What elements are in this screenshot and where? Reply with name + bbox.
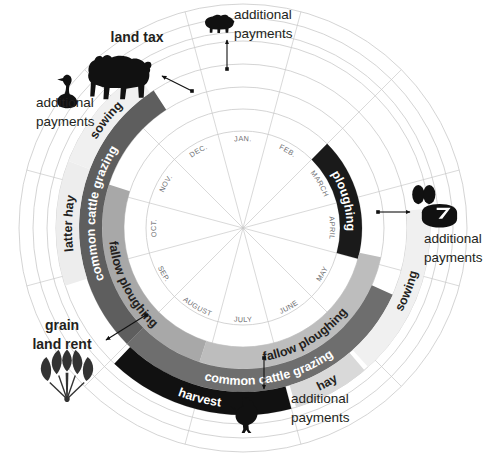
month-label-oct: OCT. bbox=[149, 218, 158, 237]
month-spoke-2 bbox=[243, 70, 401, 228]
annotation-additional-payments-left-line-0: additional bbox=[36, 95, 94, 110]
annotation-land-tax: land tax bbox=[111, 29, 164, 45]
annotation-grain-land-rent-line-1: land rent bbox=[32, 336, 91, 352]
leader-land-tax-anchor bbox=[190, 89, 194, 93]
wheat-sheaf-icon bbox=[41, 349, 93, 402]
month-label-dec: DEC. bbox=[188, 142, 209, 159]
annotation-additional-payments-top-line-0: additional bbox=[234, 7, 292, 22]
annotation-additional-payments-left-line-1: payments bbox=[36, 114, 95, 129]
cheese-icon bbox=[422, 204, 457, 228]
month-label-nov: NOV. bbox=[157, 173, 174, 194]
annotation-additional-payments-right: additionalpayments bbox=[424, 231, 483, 265]
month-label-sep: SEP. bbox=[156, 264, 172, 283]
annotation-additional-payments-left: additionalpayments bbox=[36, 95, 95, 129]
eggs-icon bbox=[412, 185, 435, 204]
annotation-additional-payments-top: additionalpayments bbox=[234, 7, 293, 41]
annotation-grain-land-rent-line-0: grain bbox=[45, 317, 79, 333]
annotation-additional-payments-bottom-line-1: payments bbox=[291, 410, 350, 425]
leader-eggs-cheese-anchor bbox=[376, 210, 380, 214]
annotation-additional-payments-right-line-1: payments bbox=[424, 250, 483, 265]
annotation-land-tax-line-0: land tax bbox=[111, 29, 164, 45]
annotation-additional-payments-bottom-line-0: additional bbox=[291, 391, 349, 406]
leader-chicken-anchor bbox=[262, 356, 266, 360]
month-label-may: MAY bbox=[314, 265, 330, 283]
month-label-july: JULY bbox=[234, 315, 253, 324]
leader-wheat-anchor bbox=[144, 313, 148, 317]
month-label-april: APRIL bbox=[327, 216, 337, 240]
pig-icon bbox=[205, 15, 234, 33]
agricultural-year-wheel: ploughingfallow ploughingfallow ploughin… bbox=[0, 0, 490, 459]
diagram-canvas: ploughingfallow ploughingfallow ploughin… bbox=[0, 0, 490, 459]
month-label-jan: JAN. bbox=[234, 134, 252, 143]
annotation-additional-payments-right-line-0: additional bbox=[424, 231, 482, 246]
month-label-feb: FEB. bbox=[278, 142, 298, 159]
annotation-additional-payments-top-line-1: payments bbox=[234, 26, 293, 41]
leader-pig-anchor bbox=[225, 67, 229, 71]
